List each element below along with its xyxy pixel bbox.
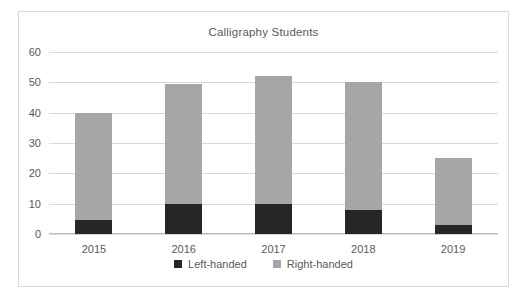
legend-swatch-icon (174, 260, 182, 268)
bar-segment[interactable] (435, 225, 472, 234)
bar-segment[interactable] (165, 204, 202, 234)
y-axis-tick-label: 10 (29, 198, 41, 210)
legend-swatch-icon (273, 260, 281, 268)
x-axis-tick-label: 2015 (82, 243, 106, 255)
legend-label: Right-handed (287, 258, 353, 270)
bar-segment[interactable] (165, 84, 202, 204)
y-axis-tick-label: 50 (29, 76, 41, 88)
bar-segment[interactable] (255, 204, 292, 234)
legend-item[interactable]: Right-handed (273, 258, 353, 270)
x-axis-tick-label: 2017 (261, 243, 285, 255)
bar-segment[interactable] (345, 82, 382, 209)
bar-segment[interactable] (255, 76, 292, 203)
legend-label: Left-handed (188, 258, 247, 270)
bar-group[interactable]: 2019 (435, 158, 472, 234)
bar-segment[interactable] (75, 113, 112, 221)
bar-group[interactable]: 2017 (255, 76, 292, 234)
gridline (49, 52, 498, 53)
legend-item[interactable]: Left-handed (174, 258, 247, 270)
bar-segment[interactable] (75, 220, 112, 234)
bar-group[interactable]: 2016 (165, 84, 202, 234)
bar-segment[interactable] (345, 210, 382, 234)
x-axis-tick-label: 2016 (171, 243, 195, 255)
bar-group[interactable]: 2015 (75, 113, 112, 234)
y-axis-tick-label: 60 (29, 46, 41, 58)
bar-segment[interactable] (435, 158, 472, 225)
chart-title: Calligraphy Students (19, 26, 508, 38)
x-axis-tick-label: 2019 (441, 243, 465, 255)
y-axis-tick-label: 20 (29, 167, 41, 179)
y-axis-tick-label: 30 (29, 137, 41, 149)
chart-legend: Left-handedRight-handed (19, 258, 508, 270)
y-axis-tick-label: 0 (35, 228, 41, 240)
plot-area: 0102030405060 20152016201720182019 (49, 52, 498, 234)
x-axis-tick-label: 2018 (351, 243, 375, 255)
y-axis-tick-label: 40 (29, 107, 41, 119)
gridline (49, 234, 498, 235)
chart-frame: Calligraphy Students 0102030405060 20152… (18, 11, 509, 287)
bar-group[interactable]: 2018 (345, 82, 382, 234)
